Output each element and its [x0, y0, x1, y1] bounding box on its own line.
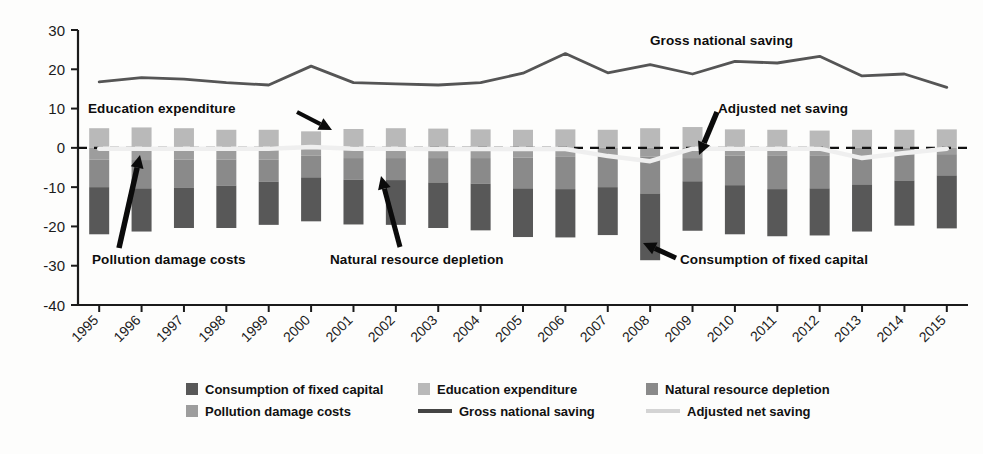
bar-segment	[555, 129, 575, 147]
bar-segment	[174, 128, 194, 148]
y-axis-tick-label: -10	[43, 179, 65, 196]
x-axis-tick-label: 2009	[661, 312, 694, 345]
bar-segment	[174, 188, 194, 228]
bar-segment	[259, 182, 279, 225]
x-axis-tick-label: 2005	[492, 312, 525, 345]
bar-segment	[513, 188, 533, 237]
bar-segment	[894, 180, 914, 225]
legend-item-natural-resource-depletion[interactable]: Natural resource depletion	[646, 382, 866, 397]
x-axis-tick-label: 1997	[153, 312, 186, 345]
annotation-consumption-of-fixed-capital: Consumption of fixed capital	[680, 252, 868, 267]
legend-item-label: Natural resource depletion	[665, 382, 830, 397]
bar-segment	[471, 129, 491, 147]
bar-segment	[428, 158, 448, 182]
legend-line-icon	[418, 409, 452, 413]
x-axis-tick-label: 1999	[237, 312, 270, 345]
bar-segment	[386, 158, 406, 180]
bar-segment	[216, 160, 236, 186]
bar-segment	[513, 158, 533, 189]
x-axis-tick-labels: 1995199619971998199920002001200220032004…	[68, 312, 949, 345]
bar-segment	[513, 130, 533, 148]
annotation-natural-resource-depletion: Natural resource depletion	[330, 252, 504, 267]
x-axis-tick-label: 1995	[68, 312, 101, 345]
annotation-arrows	[119, 112, 717, 258]
y-axis-tick-label: 20	[48, 61, 65, 78]
annotation-education-expenditure: Education expenditure	[88, 101, 236, 116]
annotation-gross-national-saving: Gross national saving	[650, 33, 793, 48]
x-axis-tick-label: 1998	[195, 312, 228, 345]
x-axis-tick-label: 2006	[534, 312, 567, 345]
bar-segment	[343, 180, 363, 225]
bar-segment	[894, 130, 914, 148]
bar-segment	[301, 177, 321, 221]
legend-line-icon	[646, 409, 680, 413]
bar-segment	[555, 189, 575, 237]
bar-segment	[767, 155, 787, 189]
x-axis-tick-label: 2014	[873, 312, 906, 345]
bar-segment	[852, 184, 872, 231]
bar-segment	[89, 187, 109, 234]
bar-segment	[640, 148, 660, 157]
bar-segment	[132, 188, 152, 231]
y-axis-tick-label: 0	[57, 139, 65, 156]
annotation-pollution-damage-costs: Pollution damage costs	[92, 252, 246, 267]
legend-item-gross-national-saving[interactable]: Gross national saving	[418, 404, 646, 419]
bar-segment	[725, 185, 745, 234]
legend-item-label: Pollution damage costs	[205, 404, 351, 419]
bar-segment	[598, 157, 618, 188]
x-axis-tick-label: 2008	[619, 312, 652, 345]
bar-segment	[852, 130, 872, 148]
legend-swatch-icon	[186, 383, 198, 395]
y-axis-tick-label: 30	[48, 22, 65, 39]
legend-item-consumption-of-fixed-capital[interactable]: Consumption of fixed capital	[186, 382, 418, 397]
bar-segment	[301, 156, 321, 178]
bar-segment	[810, 188, 830, 235]
bar-segment	[894, 155, 914, 181]
x-axis-tick-label: 1996	[110, 312, 143, 345]
legend-item-label: Adjusted net saving	[687, 404, 811, 419]
bar-segment	[810, 155, 830, 188]
x-axis-tick-label: 2000	[280, 312, 313, 345]
chart-legend: Consumption of fixed capitalEducation ex…	[186, 378, 866, 422]
y-axis-tick-label: -20	[43, 218, 65, 235]
x-axis-tick-label: 2010	[704, 312, 737, 345]
legend-item-label: Consumption of fixed capital	[205, 382, 383, 397]
bar-segment	[683, 158, 703, 181]
bar-segment	[555, 157, 575, 189]
x-axis-tick-label: 2003	[407, 312, 440, 345]
bar-segment	[937, 154, 957, 175]
bar-segment	[937, 175, 957, 228]
bar-segment	[725, 129, 745, 147]
legend-item-education-expenditure[interactable]: Education expenditure	[418, 382, 646, 397]
bar-segment	[259, 160, 279, 182]
bar-segment	[640, 128, 660, 148]
bar-segment	[767, 189, 787, 236]
x-axis-tick-label: 2013	[831, 312, 864, 345]
bar-segment	[216, 186, 236, 228]
bar-segment	[343, 158, 363, 180]
bar-segment	[428, 129, 448, 148]
arrow-adjusted-net-saving-shaft	[704, 112, 717, 143]
x-axis-tick-label: 2012	[788, 312, 821, 345]
bar-segment	[810, 131, 830, 148]
annotation-adjusted-net-saving: Adjusted net saving	[718, 101, 848, 116]
legend-item-label: Education expenditure	[437, 382, 577, 397]
bar-segment	[89, 160, 109, 188]
x-axis-tick-label: 2011	[747, 312, 780, 345]
bar-segment	[767, 130, 787, 148]
legend-item-pollution-damage-costs[interactable]: Pollution damage costs	[186, 404, 418, 419]
y-axis-tick-label: -40	[43, 297, 65, 314]
x-axis-tick-label: 2001	[322, 312, 355, 345]
y-axis-tick-label: 10	[48, 100, 65, 117]
bar-segment	[89, 128, 109, 148]
legend-swatch-icon	[186, 405, 198, 417]
legend-item-adjusted-net-saving[interactable]: Adjusted net saving	[646, 404, 866, 419]
x-axis-tick-label: 2007	[577, 312, 610, 345]
bar-segment	[386, 128, 406, 148]
bar-segment	[471, 184, 491, 231]
line-series-gross-national-saving	[99, 54, 947, 88]
y-axis-tick-labels: 3020100-10-20-30-40	[43, 22, 65, 314]
bar-segment	[937, 129, 957, 147]
bar-segment	[852, 148, 872, 155]
x-axis-tick-label: 2002	[365, 312, 398, 345]
